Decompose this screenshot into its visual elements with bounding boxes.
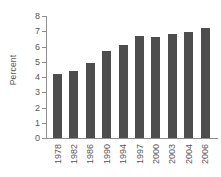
- x-tick-label: 1978: [53, 144, 62, 164]
- y-axis-title-label: Percent: [8, 55, 18, 86]
- y-tick-mark: [42, 62, 46, 63]
- y-tick-mark: [42, 123, 46, 124]
- x-tick-group: 2000: [151, 140, 160, 177]
- bar: [69, 71, 78, 138]
- y-tick-mark: [42, 47, 46, 48]
- x-tick-label: 2006: [201, 144, 210, 164]
- x-tick-group: 2003: [168, 140, 177, 177]
- x-tick-label: 1982: [69, 144, 78, 164]
- x-tick-group: 1982: [69, 140, 78, 177]
- x-tick-group: 2006: [201, 140, 210, 177]
- y-tick-label: 4: [35, 73, 40, 82]
- y-tick-mark: [42, 31, 46, 32]
- x-tick-label: 1986: [86, 144, 95, 164]
- y-tick-mark: [42, 92, 46, 93]
- bar: [201, 28, 210, 138]
- y-tick-label: 2: [35, 103, 40, 112]
- y-tick-label: 7: [35, 27, 40, 36]
- bar: [168, 34, 177, 138]
- x-tick-label: 2004: [184, 144, 193, 164]
- x-tick-label: 2003: [168, 144, 177, 164]
- bar: [119, 45, 128, 138]
- x-tick-group: 1978: [53, 140, 62, 177]
- bar: [151, 37, 160, 138]
- y-tick-label: 0: [35, 134, 40, 143]
- y-tick-label: 5: [35, 57, 40, 66]
- x-tick-group: 2004: [184, 140, 193, 177]
- bar: [184, 32, 193, 138]
- bar: [53, 74, 62, 138]
- y-tick-label: 3: [35, 88, 40, 97]
- y-tick-mark: [42, 77, 46, 78]
- x-tick-label: 1997: [135, 144, 144, 164]
- bar-chart-figure: Percent 876543210 1978198219861990199419…: [0, 0, 221, 177]
- x-tick-label: 1990: [102, 144, 111, 164]
- x-tick-group: 1997: [135, 140, 144, 177]
- y-axis-line: [46, 16, 47, 138]
- bar: [86, 63, 95, 138]
- x-tick-label: 1994: [119, 144, 128, 164]
- y-tick-label: 8: [35, 12, 40, 21]
- x-tick-group: 1986: [86, 140, 95, 177]
- y-tick-mark: [42, 16, 46, 17]
- y-axis-title: Percent: [6, 0, 20, 140]
- y-tick-mark: [42, 138, 46, 139]
- x-tick-label: 2000: [151, 144, 160, 164]
- x-tick-group: 1990: [102, 140, 111, 177]
- x-axis-line: [46, 138, 218, 139]
- y-tick-label: 1: [35, 118, 40, 127]
- plot-area: 876543210 197819821986199019941997200020…: [46, 16, 218, 138]
- y-tick-label: 6: [35, 42, 40, 51]
- bar: [135, 36, 144, 138]
- x-tick-group: 1994: [119, 140, 128, 177]
- bar: [102, 51, 111, 138]
- y-tick-mark: [42, 108, 46, 109]
